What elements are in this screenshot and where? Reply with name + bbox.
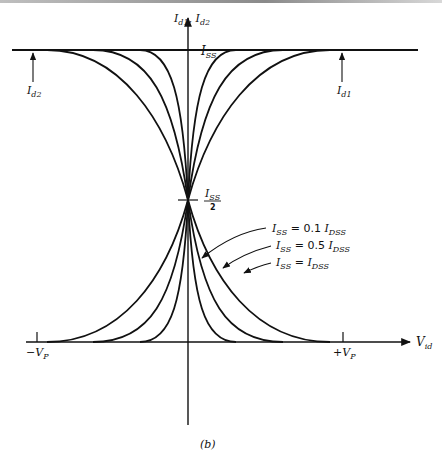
svg-text:ISS: ISS (204, 187, 221, 202)
x-axis-label: Vid (416, 335, 432, 351)
svg-text:2: 2 (210, 203, 216, 212)
legend-arrows (202, 228, 271, 273)
transfer-characteristic-diagram: Id1, Id2 ISS ISS 2 Id2 Id1 ISS = 0.1 IDS… (0, 0, 442, 457)
id2-label: Id2 (26, 84, 42, 99)
half-iss-label: ISS 2 (204, 187, 221, 212)
legend-arrow-idss (244, 263, 271, 273)
iss-label: ISS (200, 44, 217, 60)
legend-arrow-0.1idss (202, 228, 266, 258)
legend-entry-0.5idss: ISS = 0.5 IDSS (275, 239, 351, 254)
neg-vp-label: −VP (26, 346, 49, 361)
legend-entry-idss: ISS = IDSS (275, 256, 330, 271)
figure-caption: (b) (200, 438, 216, 451)
id1-label: Id1 (336, 84, 352, 99)
y-axis-label: Id1, Id2 (173, 12, 210, 27)
legend-entry-0.1idss: ISS = 0.1 IDSS (271, 222, 347, 237)
pos-vp-label: +VP (333, 346, 356, 361)
